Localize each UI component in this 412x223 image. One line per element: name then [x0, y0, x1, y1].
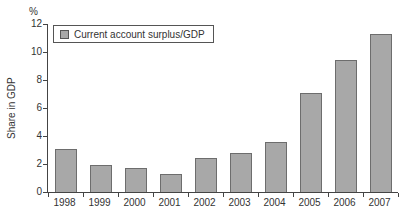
- legend-swatch-icon: [60, 30, 69, 39]
- bar-chart: % Share in GDP Current account surplus/G…: [0, 0, 412, 223]
- legend: Current account surplus/GDP: [53, 25, 214, 43]
- bar-2003: [230, 153, 252, 192]
- bar-1999: [90, 165, 112, 192]
- y-tick-label-8: 8: [0, 74, 42, 86]
- bar-2004: [265, 142, 287, 192]
- y-tick-label-0: 0: [0, 186, 42, 198]
- bar-2007: [370, 34, 392, 192]
- y-tick-6: [43, 108, 47, 109]
- bar-2005: [300, 93, 322, 192]
- y-tick-4: [43, 136, 47, 137]
- bar-2001: [160, 174, 182, 192]
- plot-area: [47, 24, 398, 193]
- x-tick-label-2006: 2006: [327, 197, 362, 208]
- y-tick-label-4: 4: [0, 130, 42, 142]
- bar-2006: [335, 60, 357, 192]
- x-tick-10: [398, 193, 399, 197]
- y-tick-label-10: 10: [0, 46, 42, 58]
- x-tick-label-2005: 2005: [292, 197, 327, 208]
- y-tick-2: [43, 164, 47, 165]
- x-tick-label-2004: 2004: [257, 197, 292, 208]
- x-tick-label-1998: 1998: [47, 197, 82, 208]
- x-tick-label-1999: 1999: [82, 197, 117, 208]
- x-tick-label-2002: 2002: [187, 197, 222, 208]
- y-tick-label-6: 6: [0, 102, 42, 114]
- bar-2000: [125, 168, 147, 192]
- x-tick-label-2007: 2007: [362, 197, 397, 208]
- y-tick-10: [43, 52, 47, 53]
- bar-1998: [55, 149, 77, 192]
- y-tick-label-12: 12: [0, 18, 42, 30]
- x-tick-label-2003: 2003: [222, 197, 257, 208]
- y-tick-8: [43, 80, 47, 81]
- bar-2002: [195, 158, 217, 192]
- legend-label: Current account surplus/GDP: [74, 29, 205, 40]
- y-tick-label-2: 2: [0, 158, 42, 170]
- x-tick-label-2000: 2000: [117, 197, 152, 208]
- y-tick-12: [43, 24, 47, 25]
- x-tick-label-2001: 2001: [152, 197, 187, 208]
- y-axis-unit-label: %: [0, 6, 38, 17]
- y-tick-0: [43, 192, 47, 193]
